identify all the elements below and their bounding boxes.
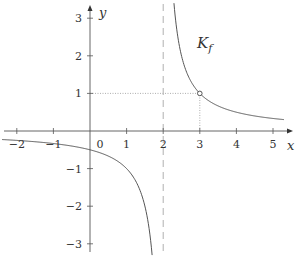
- y-axis-label: y: [98, 5, 107, 20]
- axes: [4, 5, 293, 252]
- y-tick-label: 3: [75, 12, 82, 25]
- x-axis-label: x: [287, 138, 295, 153]
- y-tick-label: 1: [75, 87, 82, 100]
- guide-lines: [90, 93, 200, 131]
- ticks: −2−1012345−3−2−1123: [9, 12, 277, 251]
- x-tick-label: −1: [45, 138, 61, 151]
- x-tick-label: 4: [233, 138, 240, 151]
- curve-label: Kf: [196, 34, 214, 55]
- curve-kf: [2, 3, 284, 255]
- y-tick-label: −3: [66, 238, 82, 251]
- function-plot: −2−1012345−3−2−1123 x y Kf: [0, 0, 297, 270]
- y-tick-label: −1: [66, 163, 82, 176]
- marked-point: [198, 91, 203, 96]
- x-tick-label: 0: [97, 138, 104, 151]
- y-tick-label: −2: [66, 200, 82, 213]
- y-tick-label: 2: [75, 50, 82, 63]
- x-tick-label: 1: [123, 138, 130, 151]
- x-tick-label: 3: [196, 138, 203, 151]
- x-tick-label: 2: [160, 138, 167, 151]
- x-tick-label: 5: [270, 138, 277, 151]
- x-tick-label: −2: [9, 138, 25, 151]
